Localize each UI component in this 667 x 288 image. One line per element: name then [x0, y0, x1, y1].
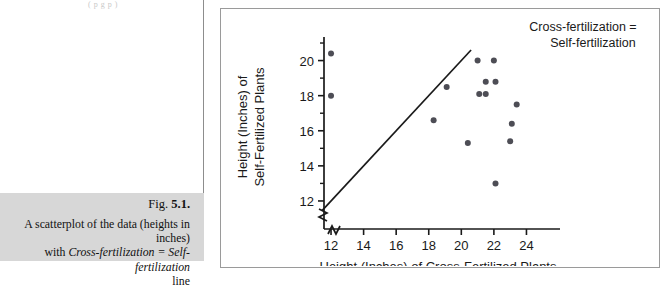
vertical-rule-divider	[203, 0, 204, 193]
data-point	[444, 84, 450, 90]
data-point	[465, 140, 471, 146]
reference-line-annotation-line2: Self-fertilization	[550, 36, 635, 50]
x-tick-label: 22	[487, 238, 501, 253]
data-point	[483, 91, 489, 97]
y-tick-label: 20	[300, 54, 314, 69]
data-point	[328, 51, 334, 57]
x-tick-label: 14	[356, 238, 370, 253]
data-point	[431, 117, 437, 123]
x-tick-label: 24	[519, 238, 533, 253]
y-tick-label: 18	[300, 89, 314, 104]
caption-line-2-prefix: with	[44, 245, 68, 259]
x-axis-title: Height (Inches) of Cross-Fertilized Plan…	[320, 259, 557, 266]
x-tick-label: 12	[324, 238, 338, 253]
y-tick-label: 14	[300, 159, 314, 174]
data-point	[328, 93, 334, 99]
data-point	[483, 79, 489, 85]
y-axis-title-line2-group: Self-Fertilized Plants	[252, 67, 267, 187]
x-tick-label: 20	[454, 238, 468, 253]
scatterplot: 121416182022241214161820Cross-fertilizat…	[221, 9, 658, 266]
caption-line-1: A scatterplot of the data (heights in in…	[24, 217, 190, 245]
caption-line-3: line	[172, 274, 190, 288]
y-axis-title-line2: Self-Fertilized Plants	[252, 67, 267, 187]
data-point	[493, 79, 499, 85]
y-axis-title-line1-group: Height (Inches) of	[235, 75, 250, 178]
figure-number-value: 5.1.	[171, 197, 190, 211]
figure-caption: A scatterplot of the data (heights in in…	[0, 217, 190, 288]
x-tick-label: 16	[389, 238, 403, 253]
data-point	[507, 138, 513, 144]
data-point	[514, 101, 520, 107]
data-point	[509, 121, 515, 127]
y-axis-title-line1: Height (Inches) of	[235, 75, 250, 178]
reference-line-annotation-line1: Cross-fertilization =	[529, 20, 636, 34]
reference-line	[322, 50, 471, 211]
data-point	[475, 58, 481, 64]
x-axis-break-icon	[328, 226, 340, 234]
data-point	[476, 91, 482, 97]
x-tick-label: 18	[422, 238, 436, 253]
data-point	[493, 180, 499, 186]
data-point	[491, 58, 497, 64]
figure-number-label: Fig. 5.1.	[0, 197, 190, 212]
figure-number-prefix: Fig.	[148, 197, 171, 211]
figure-frame: 121416182022241214161820Cross-fertilizat…	[220, 8, 660, 268]
page-top-text-fragment: ( p g p )	[8, 0, 198, 9]
y-tick-label: 12	[300, 194, 314, 209]
caption-line-2-emphasis: Cross-fertilization = Self-fertilization	[68, 245, 190, 273]
y-tick-label: 16	[300, 124, 314, 139]
